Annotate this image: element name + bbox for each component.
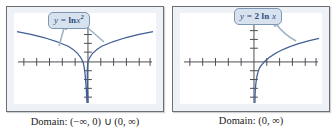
x-axis [184, 58, 318, 66]
figure-right-caption: Domain: (0, ∞) [172, 115, 330, 126]
callout-right-equals: = [247, 11, 252, 21]
curve-2-ln-x [255, 38, 319, 103]
callout-label-ln-x-squared: y = lnx2 [48, 12, 90, 29]
callout-right-fn: ln [262, 11, 270, 21]
figure-left: y = lnx2 Domain: (−∞, 0) ∪ (0, ∞) [6, 0, 166, 134]
curve-right-branch [87, 32, 153, 103]
callout-left-equals: = [61, 15, 66, 25]
graph-2-ln-x [180, 13, 322, 104]
callout-label-2-ln-x: y = 2 ln x [234, 8, 282, 25]
callout-left-y: y [54, 15, 58, 25]
callout-right-coefficient: 2 [254, 11, 259, 21]
curve-left-branch [17, 32, 87, 103]
figure-pair-page: y = lnx2 Domain: (−∞, 0) ∪ (0, ∞) [0, 0, 335, 134]
callout-right-var: x [272, 11, 276, 21]
callout-left-exponent: 2 [81, 13, 84, 20]
figure-right-plot-panel [180, 13, 322, 104]
x-axis [18, 58, 152, 66]
figure-right: y = 2 ln x Domain: (0, ∞) [172, 0, 332, 134]
y-axis [250, 23, 258, 103]
callout-right-y: y [240, 11, 244, 21]
figure-left-caption: Domain: (−∞, 0) ∪ (0, ∞) [6, 115, 164, 127]
